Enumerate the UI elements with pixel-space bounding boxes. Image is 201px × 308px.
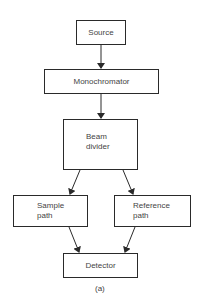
arrow-beam-divider-to-reference-path (123, 170, 133, 194)
arrow-sample-path-to-detector (69, 227, 79, 252)
monochromator-label: Monochromator (73, 77, 129, 87)
arrow-beam-divider-to-sample-path (70, 170, 80, 194)
source-label: Source (88, 28, 113, 38)
beam-divider-box: Beam divider (63, 119, 138, 170)
sample-path-label-line1: Sample (37, 201, 64, 210)
reference-path-label-line1: Reference (133, 201, 170, 210)
sample-path-box: Sample path (13, 195, 88, 227)
reference-path-label: Reference path (133, 201, 170, 221)
detector-box: Detector (63, 253, 138, 278)
beam-divider-label-line1: Beam (86, 132, 107, 141)
beam-divider-label: Beam divider (86, 132, 110, 152)
reference-path-label-line2: path (133, 211, 149, 220)
sample-path-label: Sample path (37, 201, 64, 221)
figure-caption: (a) (95, 284, 105, 293)
source-box: Source (76, 20, 126, 45)
detector-label: Detector (85, 261, 115, 271)
beam-divider-label-line2: divider (86, 142, 110, 151)
sample-path-label-line2: path (37, 211, 53, 220)
monochromator-box: Monochromator (44, 69, 159, 94)
arrow-reference-path-to-detector (125, 227, 135, 252)
reference-path-box: Reference path (114, 195, 191, 227)
